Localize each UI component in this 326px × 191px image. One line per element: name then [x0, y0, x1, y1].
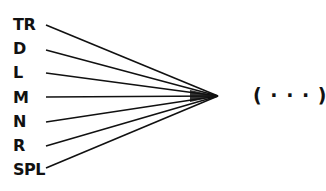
input-label-m: M: [13, 90, 28, 106]
input-label-r: R: [13, 138, 25, 154]
input-label-spl: SPL: [13, 162, 45, 178]
input-label-l: L: [13, 65, 23, 81]
input-label-tr: TR: [13, 17, 35, 33]
input-label-n: N: [13, 114, 26, 130]
line-d: [46, 50, 218, 96]
output-ellipsis: ( · · · ): [253, 84, 326, 106]
line-tr: [46, 25, 218, 96]
line-r: [46, 96, 218, 146]
input-label-d: D: [13, 41, 26, 57]
line-spl: [46, 96, 218, 168]
